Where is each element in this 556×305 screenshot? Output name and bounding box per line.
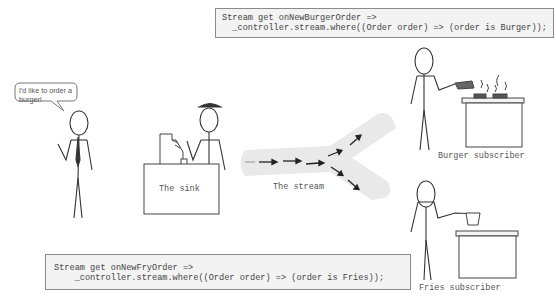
sink-label: The sink bbox=[159, 184, 200, 194]
code-line: Stream get onNewBurgerOrder => bbox=[222, 13, 553, 23]
cash-register bbox=[160, 134, 187, 165]
code-line: _controller.stream.where((Order order) =… bbox=[222, 23, 553, 33]
code-line: _controller.stream.where((Order order) =… bbox=[54, 273, 410, 283]
stream-label: The stream bbox=[273, 182, 324, 192]
fries-stream-code: Stream get onNewFryOrder => _controller.… bbox=[45, 254, 411, 290]
fryer bbox=[456, 213, 518, 278]
code-line: Stream get onNewFryOrder => bbox=[54, 263, 410, 273]
fries-subscriber-label: Fries subscriber bbox=[419, 283, 501, 293]
customer-figure bbox=[58, 111, 92, 218]
burger-stream-code: Stream get onNewBurgerOrder => _controll… bbox=[215, 8, 554, 38]
burger-cook-figure bbox=[411, 48, 455, 150]
cashier-figure bbox=[187, 104, 225, 171]
burger-subscriber-label: Burger subscriber bbox=[438, 151, 525, 161]
grill bbox=[455, 75, 524, 147]
customer-speech: I'd like to order a burger! bbox=[19, 86, 77, 104]
